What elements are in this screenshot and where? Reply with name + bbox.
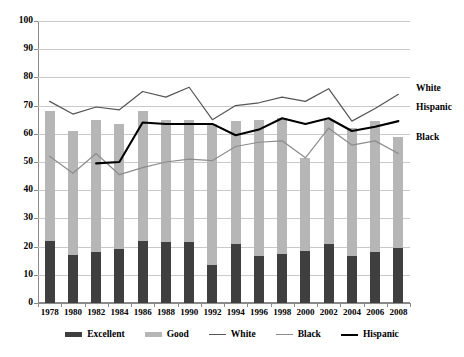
- x-tick-label: 1994: [227, 308, 245, 317]
- x-tick-mark: [61, 303, 62, 307]
- x-tick-label: 1982: [87, 308, 105, 317]
- legend-swatch-icon: [145, 332, 162, 337]
- x-tick-label: 1998: [273, 308, 291, 317]
- legend-label: White: [231, 330, 256, 340]
- y-tick-label: 10: [24, 270, 39, 280]
- x-tick-label: 2004: [343, 308, 361, 317]
- x-tick-mark: [224, 303, 225, 307]
- x-tick-label: 1984: [110, 308, 128, 317]
- series-label-black: Black: [416, 133, 439, 143]
- x-tick-mark: [38, 303, 39, 307]
- y-tick-label: 50: [24, 157, 39, 167]
- x-tick-mark: [247, 303, 248, 307]
- x-tick-mark: [154, 303, 155, 307]
- y-tick-label: 100: [19, 16, 38, 26]
- y-tick-label: 40: [24, 185, 39, 195]
- x-tick-mark: [108, 303, 109, 307]
- x-tick-label: 2002: [320, 308, 338, 317]
- chart-container: 0102030405060708090100 19781980198219841…: [0, 0, 464, 357]
- line-series-hispanic: [96, 118, 398, 163]
- series-label-hispanic: Hispanic: [416, 104, 452, 114]
- x-tick-label: 2000: [296, 308, 314, 317]
- y-tick-label: 90: [24, 44, 39, 54]
- line-series-black: [50, 128, 399, 175]
- legend-line-icon: [341, 334, 358, 336]
- legend-label: Excellent: [87, 330, 124, 340]
- x-tick-mark: [410, 303, 411, 307]
- legend-line-icon: [276, 334, 293, 335]
- legend-item-hispanic[interactable]: Hispanic: [341, 330, 399, 340]
- x-tick-mark: [364, 303, 365, 307]
- x-tick-label: 1986: [134, 308, 152, 317]
- y-tick-label: 70: [24, 101, 39, 111]
- x-tick-label: 1996: [250, 308, 268, 317]
- y-tick-label: 80: [24, 73, 39, 83]
- x-tick-mark: [85, 303, 86, 307]
- x-tick-mark: [201, 303, 202, 307]
- legend-item-good[interactable]: Good: [145, 330, 189, 340]
- legend-item-excellent[interactable]: Excellent: [65, 330, 124, 340]
- chart-legend: ExcellentGoodWhiteBlackHispanic: [0, 330, 464, 340]
- x-tick-label: 1978: [41, 308, 59, 317]
- x-tick-label: 1980: [64, 308, 82, 317]
- plot-area: 0102030405060708090100 19781980198219841…: [38, 21, 410, 303]
- x-tick-mark: [317, 303, 318, 307]
- y-tick-label: 30: [24, 214, 39, 224]
- x-tick-mark: [387, 303, 388, 307]
- x-tick-label: 2008: [389, 308, 407, 317]
- legend-item-white[interactable]: White: [209, 330, 256, 340]
- line-series-group: [38, 21, 410, 303]
- x-tick-label: 1992: [203, 308, 221, 317]
- y-tick-label: 0: [28, 298, 38, 308]
- x-tick-label: 1988: [157, 308, 175, 317]
- line-series-white: [50, 87, 399, 121]
- legend-line-icon: [209, 334, 226, 335]
- x-tick-mark: [340, 303, 341, 307]
- legend-item-black[interactable]: Black: [276, 330, 321, 340]
- legend-swatch-icon: [65, 332, 82, 337]
- y-tick-label: 60: [24, 129, 39, 139]
- x-tick-label: 1990: [180, 308, 198, 317]
- x-tick-mark: [178, 303, 179, 307]
- x-tick-mark: [294, 303, 295, 307]
- legend-label: Hispanic: [363, 330, 399, 340]
- y-tick-label: 20: [24, 242, 39, 252]
- x-tick-label: 2006: [366, 308, 384, 317]
- series-label-white: White: [416, 84, 441, 94]
- legend-label: Good: [167, 330, 189, 340]
- x-tick-mark: [271, 303, 272, 307]
- x-tick-mark: [131, 303, 132, 307]
- legend-label: Black: [298, 330, 321, 340]
